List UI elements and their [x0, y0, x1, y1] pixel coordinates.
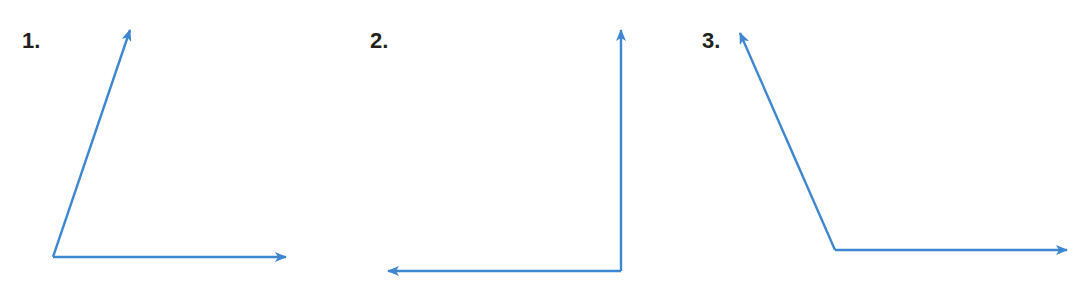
angle-2 [388, 30, 621, 271]
angle-diagram [0, 0, 1075, 294]
angle-1 [53, 30, 286, 257]
ray-1a-arrow-icon [53, 30, 130, 257]
ray-3a-arrow-icon [740, 33, 835, 250]
angle-3 [740, 33, 1067, 250]
